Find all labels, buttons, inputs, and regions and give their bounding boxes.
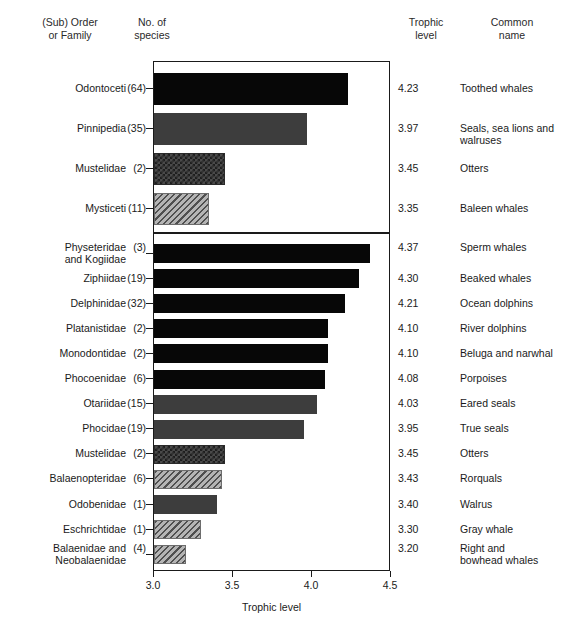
bar-monodontidae <box>154 344 328 363</box>
num-species-label: (3) <box>108 241 146 253</box>
figure-root: (Sub) Order or Family No. of species Tro… <box>0 0 574 632</box>
common-name-label: Walrus <box>460 498 572 510</box>
common-name-label: Ocean dolphins <box>460 297 572 309</box>
common-name-label: River dolphins <box>460 322 572 334</box>
bar-odontoceti <box>154 73 348 105</box>
common-name-label: Baleen whales <box>460 202 572 214</box>
x-axis-tick-label: 3.0 <box>133 579 173 591</box>
row-tick-mark <box>146 453 153 454</box>
trophic-level-value: 4.21 <box>398 297 438 309</box>
num-species-label: (1) <box>108 523 146 535</box>
common-name-label: True seals <box>460 422 572 434</box>
bar-phocoenidae <box>154 370 325 389</box>
trophic-level-value: 4.30 <box>398 272 438 284</box>
x-axis: 3.03.54.04.5 <box>153 571 390 572</box>
column-header-common-name: Common name <box>460 16 564 42</box>
x-axis-tick <box>311 571 312 577</box>
trophic-level-value: 4.08 <box>398 372 438 384</box>
trophic-level-value: 4.03 <box>398 397 438 409</box>
bar-otariidae <box>154 395 317 414</box>
row-tick-mark <box>146 378 153 379</box>
row-tick-mark <box>146 303 153 304</box>
num-species-label: (6) <box>108 372 146 384</box>
row-tick-mark <box>146 128 153 129</box>
num-species-label: (15) <box>108 397 146 409</box>
x-axis-tick-label: 4.5 <box>370 579 410 591</box>
trophic-level-value: 3.35 <box>398 202 438 214</box>
bar-ziphiidae <box>154 269 359 288</box>
x-axis-title: Trophic level <box>153 601 390 613</box>
trophic-level-value: 3.43 <box>398 472 438 484</box>
bar-balaenopteridae <box>154 470 222 489</box>
num-species-label: (1) <box>108 498 146 510</box>
x-axis-tick <box>232 571 233 577</box>
common-name-label: Right and bowhead whales <box>460 542 572 566</box>
chart-panel-upper <box>153 61 390 233</box>
column-header-trophic-level: Trophic level <box>398 16 454 42</box>
row-tick-mark <box>146 88 153 89</box>
row-tick-mark <box>146 403 153 404</box>
bar-mustelidae <box>154 153 225 185</box>
common-name-label: Porpoises <box>460 372 572 384</box>
trophic-level-value: 3.40 <box>398 498 438 510</box>
num-species-label: (19) <box>108 272 146 284</box>
common-name-label: Seals, sea lions and walruses <box>460 122 572 146</box>
x-axis-tick <box>153 571 154 577</box>
trophic-level-value: 3.97 <box>398 122 438 134</box>
trophic-level-value: 4.10 <box>398 322 438 334</box>
num-species-label: (11) <box>108 202 146 214</box>
num-species-label: (2) <box>108 347 146 359</box>
x-axis-tick-label: 4.0 <box>291 579 331 591</box>
common-name-label: Otters <box>460 447 572 459</box>
trophic-level-value: 3.45 <box>398 162 438 174</box>
column-header-num-species: No. of species <box>112 16 192 42</box>
trophic-level-value: 4.37 <box>398 241 438 253</box>
trophic-level-value: 3.30 <box>398 523 438 535</box>
row-tick-mark <box>146 554 153 555</box>
trophic-level-value: 3.45 <box>398 447 438 459</box>
bar-mysticeti <box>154 193 209 225</box>
common-name-label: Gray whale <box>460 523 572 535</box>
num-species-label: (64) <box>108 82 146 94</box>
common-name-label: Sperm whales <box>460 241 572 253</box>
num-species-label: (6) <box>108 472 146 484</box>
num-species-label: (2) <box>108 162 146 174</box>
bar-delphinidae <box>154 294 345 313</box>
num-species-label: (2) <box>108 322 146 334</box>
row-tick-mark <box>146 278 153 279</box>
common-name-label: Otters <box>460 162 572 174</box>
common-name-label: Rorquals <box>460 472 572 484</box>
common-name-label: Toothed whales <box>460 82 572 94</box>
bar-odobenidae <box>154 495 217 514</box>
row-tick-mark <box>146 353 153 354</box>
row-tick-mark <box>146 328 153 329</box>
row-tick-mark <box>146 529 153 530</box>
common-name-label: Eared seals <box>460 397 572 409</box>
row-tick-mark <box>146 504 153 505</box>
common-name-label: Beaked whales <box>460 272 572 284</box>
chart-panel-lower <box>153 233 390 571</box>
num-species-label: (19) <box>108 422 146 434</box>
row-tick-mark <box>146 208 153 209</box>
bar-phocidae <box>154 420 304 439</box>
common-name-label: Beluga and narwhal <box>460 347 572 359</box>
trophic-level-value: 3.95 <box>398 422 438 434</box>
row-tick-mark <box>146 253 153 254</box>
row-tick-mark <box>146 168 153 169</box>
x-axis-tick-label: 3.5 <box>212 579 252 591</box>
bar-eschrichtidae <box>154 520 201 539</box>
bar-mustelidae <box>154 445 225 464</box>
trophic-level-value: 4.10 <box>398 347 438 359</box>
num-species-label: (35) <box>108 122 146 134</box>
num-species-label: (4) <box>108 542 146 554</box>
trophic-level-value: 4.23 <box>398 82 438 94</box>
bar-balaenidae-and-neobalaenidae <box>154 545 186 564</box>
column-header-taxon: (Sub) Order or Family <box>14 16 126 42</box>
bar-pinnipedia <box>154 113 307 145</box>
trophic-level-value: 3.20 <box>398 542 438 554</box>
num-species-label: (2) <box>108 447 146 459</box>
num-species-label: (32) <box>108 297 146 309</box>
row-tick-mark <box>146 478 153 479</box>
x-axis-tick <box>390 571 391 577</box>
bar-physeteridae-and-kogiidae <box>154 244 370 263</box>
